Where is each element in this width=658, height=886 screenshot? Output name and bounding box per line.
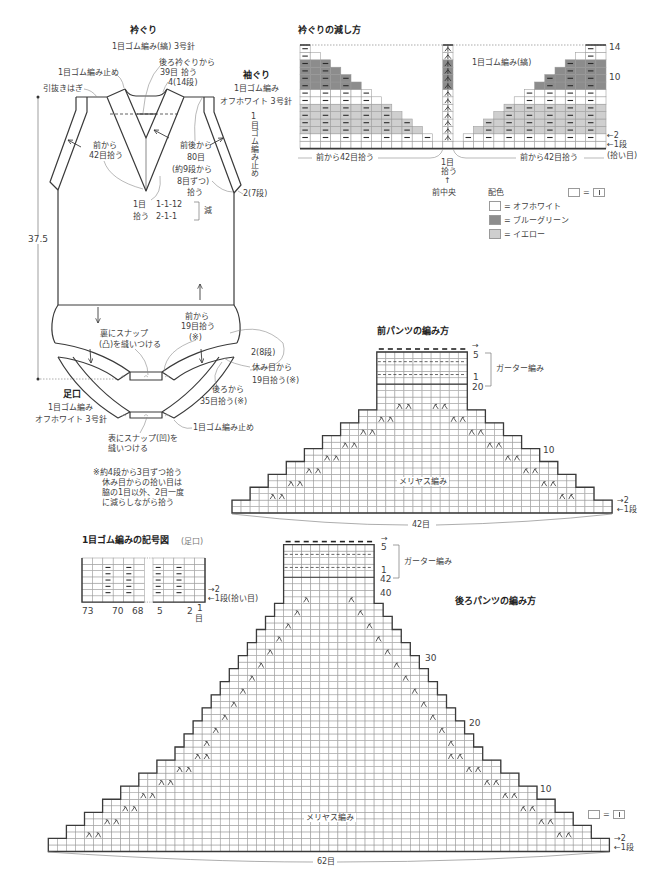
stitch-cell xyxy=(483,838,492,845)
stitch-cell xyxy=(329,584,338,591)
stitch-cell xyxy=(603,500,612,506)
stitch-cell xyxy=(467,507,476,513)
stitch-cell xyxy=(266,714,275,721)
stitch-cell xyxy=(410,799,419,806)
stitch-cell xyxy=(229,675,238,682)
stitch-cell xyxy=(293,695,302,702)
stitch-cell xyxy=(437,701,446,708)
stitch-cell xyxy=(329,597,338,604)
stitch-cell xyxy=(302,675,311,682)
stitch-cell xyxy=(266,747,275,754)
stitch-cell xyxy=(250,500,259,506)
stitch-cell xyxy=(347,806,356,813)
stitch-cell xyxy=(92,564,102,570)
stitch-cell xyxy=(428,740,437,747)
stitch-cell xyxy=(275,721,284,728)
stitch-cell xyxy=(575,97,585,104)
stitch-cell xyxy=(483,767,492,774)
stitch-cell xyxy=(247,747,256,754)
legend-item-yellow: = イエロー xyxy=(504,230,545,239)
stitch-cell xyxy=(413,494,422,500)
stitch-cell xyxy=(537,838,546,845)
stitch-cell xyxy=(202,727,211,734)
stitch-cell xyxy=(313,507,322,513)
stitch-cell xyxy=(401,799,410,806)
stitch-cell xyxy=(368,455,377,461)
center-front-arrow-icon: ↑ xyxy=(444,176,451,185)
stitch-cell xyxy=(266,708,275,715)
stitch-cell xyxy=(338,825,347,832)
stitch-cell xyxy=(365,636,374,643)
armhole-pickup-line2: 80目 xyxy=(187,153,205,162)
stitch-cell xyxy=(492,760,501,767)
stitch-cell xyxy=(356,675,365,682)
stitch-cell xyxy=(302,832,311,839)
stitch-cell xyxy=(359,481,368,487)
stitch-cell xyxy=(284,754,293,761)
stitch-cell xyxy=(275,780,284,787)
front-direction-arrow-icon: → xyxy=(472,341,479,350)
stitch-cell xyxy=(323,481,332,487)
stitch-cell xyxy=(458,378,467,384)
stitch-cell xyxy=(528,819,537,826)
stitch-cell xyxy=(266,662,275,669)
stitch-cell xyxy=(202,721,211,728)
stitch-cell xyxy=(175,773,184,780)
stitch-cell xyxy=(474,773,483,780)
stitch-cell xyxy=(582,832,591,839)
stitch-cell xyxy=(121,786,130,793)
stitch-cell xyxy=(440,455,449,461)
stitch-cell xyxy=(467,461,476,467)
stitch-cell xyxy=(546,838,555,845)
stitch-cell xyxy=(494,126,504,133)
legend-item-blue-green: = ブルーグリーン xyxy=(504,216,569,225)
stitch-cell xyxy=(474,754,483,761)
stitch-cell xyxy=(410,721,419,728)
leg-front-pickup-line2: 19目拾う xyxy=(181,322,215,331)
stitch-cell xyxy=(573,845,582,852)
stitch-cell xyxy=(356,825,365,832)
stitch-cell xyxy=(392,838,401,845)
stitch-cell xyxy=(419,793,428,800)
stitch-cell xyxy=(365,767,374,774)
stitch-cell xyxy=(94,819,103,826)
stitch-cell xyxy=(437,786,446,793)
stitch-cell xyxy=(184,583,194,589)
stitch-cell xyxy=(428,688,437,695)
stitch-cell xyxy=(338,675,347,682)
stitch-cell xyxy=(329,669,338,676)
stitch-cell xyxy=(365,727,374,734)
stitch-cell xyxy=(412,141,422,148)
stitch-cell xyxy=(302,721,311,728)
stitch-cell xyxy=(112,838,121,845)
stitch-cell xyxy=(338,571,347,578)
stitch-cell xyxy=(383,838,392,845)
stitch-cell xyxy=(275,838,284,845)
stitch-cell xyxy=(392,845,401,852)
rib-col-73: 73 xyxy=(82,607,93,616)
stitch-cell xyxy=(202,734,211,741)
stitch-cell xyxy=(229,754,238,761)
stitch-cell xyxy=(256,799,265,806)
stitch-cell xyxy=(347,799,356,806)
stitch-cell xyxy=(184,799,193,806)
stitch-cell xyxy=(302,643,311,650)
stitch-cell xyxy=(284,577,293,584)
stitch-cell xyxy=(474,838,483,845)
stitch-cell xyxy=(256,832,265,839)
stitch-cell xyxy=(522,487,531,493)
stitch-cell xyxy=(277,487,286,493)
stitch-cell xyxy=(555,126,565,133)
stitch-cell xyxy=(404,436,413,442)
stitch-cell xyxy=(284,819,293,826)
stitch-cell xyxy=(338,584,347,591)
stitch-cell xyxy=(320,721,329,728)
stitch-cell xyxy=(504,481,513,487)
stitch-cell xyxy=(413,449,422,455)
stitch-cell xyxy=(338,773,347,780)
stitch-cell xyxy=(365,754,374,761)
stitch-cell xyxy=(510,812,519,819)
stitch-cell xyxy=(413,507,422,513)
stitch-cell xyxy=(410,734,419,741)
stitch-cell xyxy=(383,675,392,682)
